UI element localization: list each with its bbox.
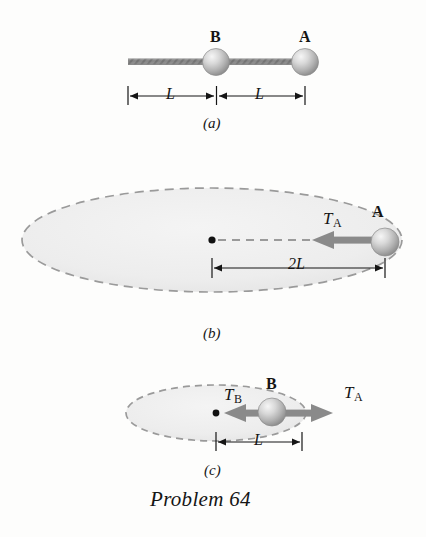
dimension-label-l-right: L — [255, 86, 264, 102]
figure-graphics — [0, 0, 426, 537]
ball-b-sphere — [203, 49, 230, 76]
dimension-label-2l: 2L — [288, 256, 305, 272]
force-subscript-a: A — [353, 390, 362, 404]
panel-label-b: (b) — [203, 326, 221, 341]
ball-label-b-a: B — [210, 29, 221, 45]
dimension-label-l-left: L — [166, 86, 175, 102]
ball-b-sphere-c — [258, 398, 286, 426]
panel-b-graphics — [22, 188, 402, 292]
panel-label-a: (a) — [203, 116, 221, 131]
panel-a-graphics — [128, 49, 319, 106]
figure-caption: Problem 64 — [150, 489, 251, 510]
force-subscript-b: B — [233, 392, 242, 406]
force-label-tb-c: TB — [224, 386, 242, 405]
ball-label-a-a: A — [299, 29, 311, 45]
force-subscript-a: A — [332, 216, 341, 230]
force-label-ta-c: TA — [344, 384, 363, 403]
center-dot-c — [213, 410, 220, 417]
ball-label-a-b: A — [372, 204, 384, 220]
force-label-ta-b: TA — [323, 210, 342, 229]
ball-label-b-c: B — [266, 376, 277, 392]
dimension-lines-a — [128, 86, 305, 105]
physics-figure: B A L L (a) TA A 2L (b) TB B TA L (c) Pr… — [0, 0, 426, 537]
dimension-label-l-c: L — [254, 432, 263, 448]
panel-label-c: (c) — [204, 463, 221, 478]
center-dot-b — [208, 236, 215, 243]
ball-a-sphere — [292, 49, 319, 76]
ball-a-sphere-b — [371, 228, 399, 256]
